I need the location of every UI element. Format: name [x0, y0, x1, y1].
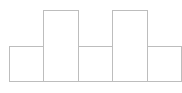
bar-5	[147, 46, 182, 82]
bar-2	[43, 10, 78, 82]
bar-3	[78, 46, 113, 82]
bar-4	[112, 10, 147, 82]
bar-chart	[9, 0, 181, 82]
bar-1	[9, 46, 44, 82]
